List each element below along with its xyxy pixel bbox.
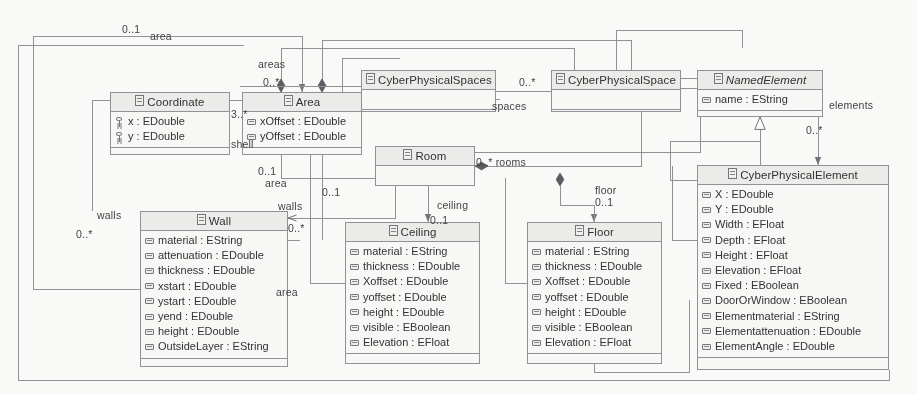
uml-class-room[interactable]: Room [375,146,475,186]
attribute-row[interactable]: thickness : EDouble [350,259,476,274]
attribute-row[interactable]: xOffset : EDouble [247,114,358,129]
attribute-row[interactable]: Xoffset : EDouble [532,274,658,289]
attribute-row[interactable]: Height : EFloat [702,248,885,263]
class-header-wall: Wall [141,212,287,231]
eclass-icon [556,73,565,84]
attribute-row[interactable]: X : EDouble [702,187,885,202]
class-header-room: Room [376,147,474,166]
attribute-row[interactable]: Elementmaterial : EString [702,309,885,324]
attribute-row[interactable]: OutsideLayer : EString [145,339,284,354]
attribute-row[interactable]: y : EDouble [115,129,226,144]
attribute-row[interactable]: Fixed : EBoolean [702,278,885,293]
attribute-row[interactable]: Elementattenuation : EDouble [702,324,885,339]
attribute-row[interactable]: height : EDouble [350,305,476,320]
class-name: CyberPhysicalElement [740,169,858,181]
class-name: NamedElement [726,74,806,86]
attribute-row[interactable]: visible : EBoolean [532,320,658,335]
attribute-label: OutsideLayer : EString [158,339,269,354]
edge-label-l5: 3..* [231,108,248,120]
attribute-icon [145,238,154,244]
attribute-label: DoorOrWindow : EBoolean [715,293,847,308]
edge-label-l17: walls [278,200,302,212]
uml-class-coordinate[interactable]: Coordinatex : EDoubley : EDouble [110,92,230,155]
attribute-row[interactable]: name : EString [702,92,819,107]
attribute-icon [350,325,359,331]
attribute-row[interactable]: thickness : EDouble [145,263,284,278]
attribute-label: Elevation : EFloat [545,335,631,350]
uml-class-ceiling[interactable]: Ceilingmaterial : EStringthickness : EDo… [345,222,480,364]
class-attributes-cyberphysicalelement: X : EDoubleY : EDoubleWidth : EFloatDept… [698,185,888,357]
class-header-area: Area [243,93,361,112]
attribute-row[interactable]: Elevation : EFloat [702,263,885,278]
uml-class-cyberphysicalspace[interactable]: CyberPhysicalSpace [551,70,681,112]
attribute-row[interactable]: Elevation : EFloat [532,335,658,350]
uml-class-area[interactable]: AreaxOffset : EDoubleyOffset : EDouble [242,92,362,155]
eclass-icon [575,225,584,236]
attribute-row[interactable]: attenuation : EDouble [145,248,284,263]
attribute-icon [145,344,154,350]
attribute-icon [532,325,541,331]
attribute-icon [702,283,711,289]
class-header-coordinate: Coordinate [111,93,229,112]
edge-label-l4: 0..* [263,76,280,88]
attribute-row[interactable]: height : EDouble [532,305,658,320]
attribute-row[interactable]: DoorOrWindow : EBoolean [702,293,885,308]
attribute-row[interactable]: material : EString [350,244,476,259]
attribute-row[interactable]: Elevation : EFloat [350,335,476,350]
attribute-row[interactable]: yOffset : EDouble [247,129,358,144]
edge-label-l6: shell [231,138,254,150]
class-operations-cyberphysicalspace [552,109,680,119]
class-operations-cyberphysicalelement [698,357,888,367]
edge-label-l21: ceiling [437,199,468,211]
attribute-icon [532,294,541,300]
uml-class-cyberphysicalspaces[interactable]: CyberPhysicalSpaces [361,70,496,112]
attribute-label: Xoffset : EDouble [363,274,448,289]
attribute-row[interactable]: height : EDouble [145,324,284,339]
attribute-label: material : EString [363,244,447,259]
attribute-row[interactable]: Width : EFloat [702,217,885,232]
attribute-icon [532,340,541,346]
attribute-row[interactable]: visible : EBoolean [350,320,476,335]
class-attributes-coordinate: x : EDoubley : EDouble [111,112,229,147]
class-attributes-floor: material : EStringthickness : EDoubleXof… [528,242,661,353]
attribute-row[interactable]: material : EString [532,244,658,259]
attribute-icon [702,268,711,274]
attribute-row[interactable]: yoffset : EDouble [350,290,476,305]
key-icon [115,132,124,142]
attribute-row[interactable]: yend : EDouble [145,309,284,324]
uml-class-namedelement[interactable]: NamedElementname : EString [697,70,823,117]
class-header-cyberphysicalspaces: CyberPhysicalSpaces [362,71,495,90]
attribute-row[interactable]: Depth : EFloat [702,233,885,248]
class-name: Coordinate [147,96,204,108]
class-attributes-cyberphysicalspaces [362,90,495,109]
attribute-label: name : EString [715,92,788,107]
attribute-row[interactable]: ystart : EDouble [145,294,284,309]
edge-label-l16: 0..1 [595,196,613,208]
attribute-icon [145,329,154,335]
attribute-row[interactable]: yoffset : EDouble [532,290,658,305]
attribute-label: Width : EFloat [715,217,784,232]
eclass-icon [728,168,737,179]
eclass-icon [366,73,375,84]
uml-class-wall[interactable]: Wallmaterial : EStringattenuation : EDou… [140,211,288,367]
uml-class-cyberphysicalelement[interactable]: CyberPhysicalElementX : EDoubleY : EDoub… [697,165,889,370]
uml-class-floor[interactable]: Floormaterial : EStringthickness : EDoub… [527,222,662,364]
edge-label-l19: walls [97,209,121,221]
attribute-row[interactable]: material : EString [145,233,284,248]
class-name: Floor [587,226,614,238]
class-operations-wall [141,358,287,368]
attribute-row[interactable]: ElementAngle : EDouble [702,339,885,354]
attribute-row[interactable]: Xoffset : EDouble [350,274,476,289]
attribute-row[interactable]: x : EDouble [115,114,226,129]
edge-label-l11: 0..1 [258,165,276,177]
attribute-icon [532,279,541,285]
attribute-icon [145,314,154,320]
attribute-label: yoffset : EDouble [545,290,629,305]
attribute-icon [702,313,711,319]
attribute-label: yoffset : EDouble [363,290,447,305]
attribute-row[interactable]: Y : EDouble [702,202,885,217]
attribute-row[interactable]: thickness : EDouble [532,259,658,274]
edge-label-l12: area [265,177,287,189]
attribute-label: height : EDouble [545,305,626,320]
attribute-row[interactable]: xstart : EDouble [145,279,284,294]
